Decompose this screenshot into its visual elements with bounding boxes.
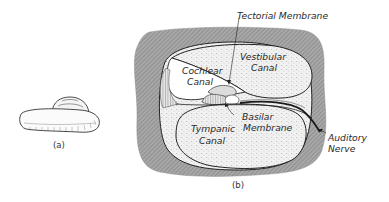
panel-b-cross-section [134,18,326,176]
label-tectorial-membrane: Tectorial Membrane [237,10,328,21]
label-vestibular-2: Canal [251,62,277,73]
label-tympanic-2: Canal [199,135,225,146]
label-basilar-1: Basilar [242,111,274,122]
inner-cell [225,95,239,105]
label-auditory-1: Auditory [327,132,367,143]
cochlea-diagram: (a) [0,0,389,202]
label-tympanic-1: Tympanic [191,123,235,134]
label-cochlear-1: Cochlear [182,65,224,76]
panel-a-caption: (a) [53,140,65,150]
label-vestibular-1: Vestibular [240,51,287,62]
panel-a-shell [20,97,100,132]
label-auditory-2: Nerve [328,143,356,154]
label-cochlear-2: Canal [187,76,213,87]
panel-b-caption: (b) [232,180,244,190]
label-basilar-2: Membrane [243,122,293,133]
